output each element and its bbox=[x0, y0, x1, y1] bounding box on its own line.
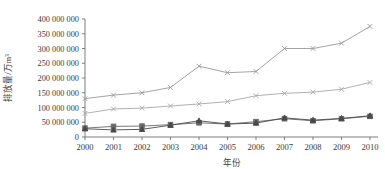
y-tick-label: 300 000 000 bbox=[38, 45, 79, 54]
x-tick-label: 2003 bbox=[162, 142, 179, 152]
x-tick-label: 2008 bbox=[304, 142, 321, 152]
x-tick-label: 2000 bbox=[76, 142, 93, 152]
x-axis-title: 年份 bbox=[223, 157, 241, 168]
x-tick-label: 2009 bbox=[333, 142, 350, 152]
emissions-line-chart: 050 000 000100 000 000150 000 000200 000… bbox=[0, 0, 385, 169]
x-tick-label: 2002 bbox=[133, 142, 150, 152]
y-tick-label: 0 bbox=[75, 133, 79, 142]
series-line bbox=[85, 26, 370, 98]
x-tick-label: 2001 bbox=[105, 142, 122, 152]
x-tick-label: 2010 bbox=[361, 142, 378, 152]
y-tick-label: 350 000 000 bbox=[38, 30, 79, 39]
y-tick-label: 50 000 000 bbox=[42, 118, 79, 127]
x-tick-label: 2007 bbox=[276, 142, 294, 152]
y-axis-title: 排放量/万m³ bbox=[2, 54, 13, 102]
x-tick-label: 2005 bbox=[219, 142, 236, 152]
series-line bbox=[85, 82, 370, 113]
x-axis-tick-labels: 2000200120022003200420052006200720082009… bbox=[76, 142, 378, 152]
y-tick-label: 100 000 000 bbox=[38, 104, 79, 113]
series-layer bbox=[82, 24, 372, 132]
series-cross bbox=[83, 24, 373, 101]
x-tick-label: 2006 bbox=[247, 142, 265, 152]
chart-container: 050 000 000100 000 000150 000 000200 000… bbox=[0, 0, 385, 169]
y-tick-label: 200 000 000 bbox=[38, 74, 79, 83]
series-cross bbox=[83, 80, 373, 116]
y-tick-label: 150 000 000 bbox=[38, 89, 79, 98]
x-tick-label: 2004 bbox=[190, 142, 208, 152]
y-axis-tick-labels: 050 000 000100 000 000150 000 000200 000… bbox=[38, 15, 79, 142]
y-tick-label: 400 000 000 bbox=[38, 15, 79, 24]
y-tick-label: 250 000 000 bbox=[38, 59, 79, 68]
cross-marker bbox=[368, 24, 373, 29]
series-triangle bbox=[82, 113, 372, 132]
